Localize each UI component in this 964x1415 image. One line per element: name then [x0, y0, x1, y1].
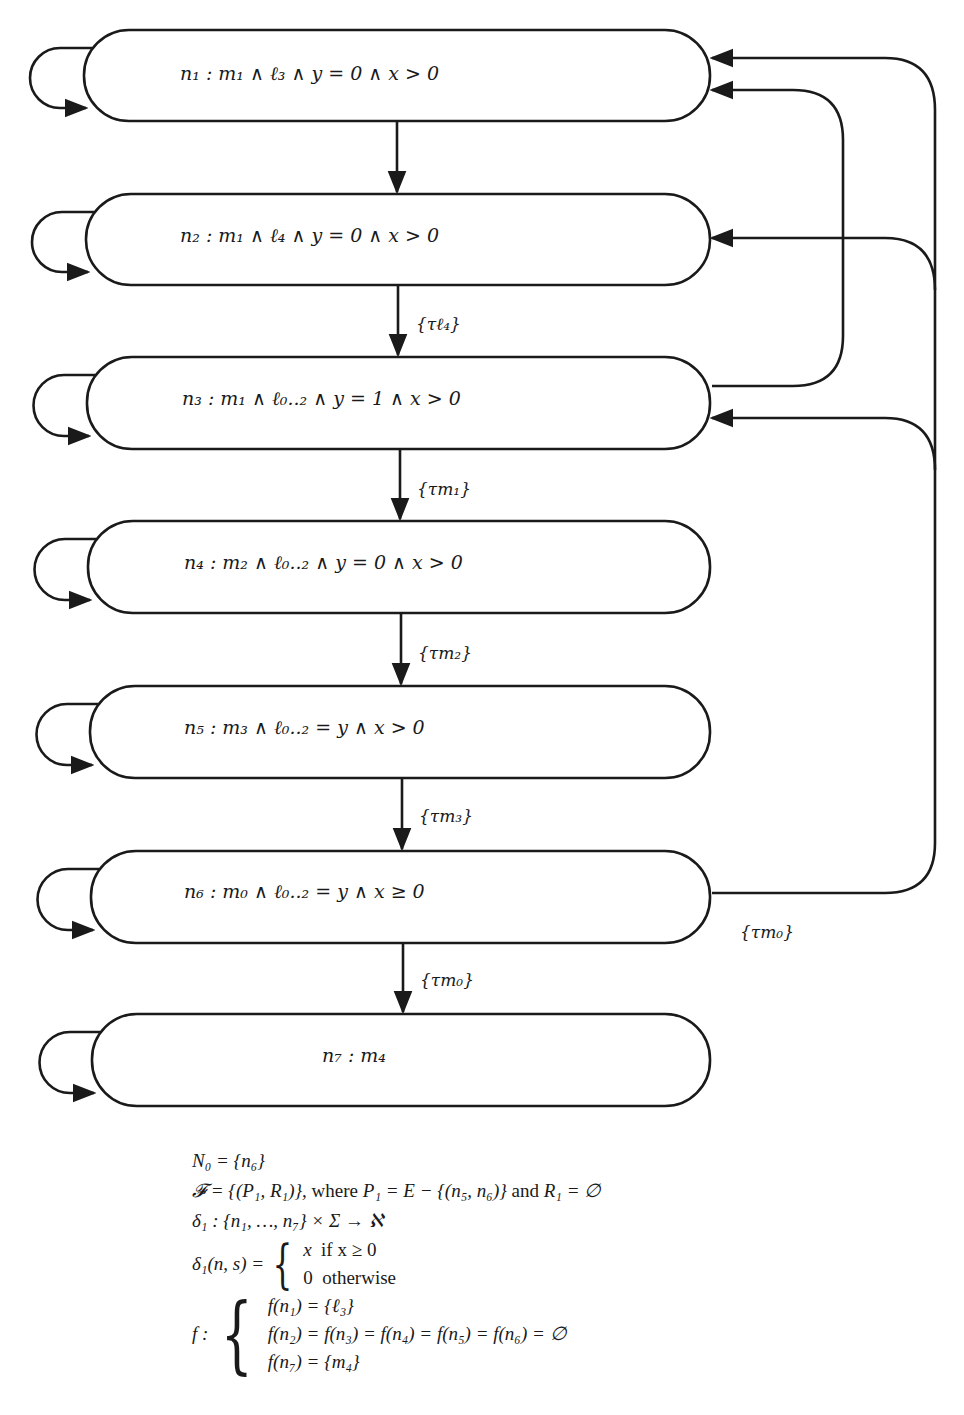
initial-nodes-definition: N₀ = {n₆} [192, 1146, 601, 1176]
edge-label-n3-n4: {τm₁} [417, 479, 471, 499]
node-n2-label: n₂ : m₁ ∧ ℓ₄ ∧ y = 0 ∧ x > 0 [180, 224, 439, 247]
self-loop-n1 [30, 48, 92, 108]
edge-n6-n3 [712, 418, 935, 470]
delta-case-1: x if x ≥ 0 [303, 1236, 396, 1264]
fairness-definition: 𝓕 = {(P₁, R₁)}, where P₁ = E − {(n₅, n₆)… [192, 1176, 601, 1206]
node-n7-label: n₇ : m₄ [322, 1044, 386, 1066]
edge-label-n6-back: {τm₀} [740, 922, 794, 942]
edge-n6-back-trunk [712, 110, 935, 893]
fairness-p1: P₁ = E − {(n₅, n₆)} [358, 1180, 512, 1201]
f-definition: f : { f(n₁) = {ℓ₃} f(n₂) = f(n₃) = f(n₄)… [192, 1292, 601, 1376]
edge-label-n6-n7: {τm₀} [420, 970, 474, 990]
fairness-r1: R₁ = ∅ [539, 1180, 601, 1201]
f-case-2: f(n₂) = f(n₃) = f(n₄) = f(n₅) = f(n₆) = … [268, 1320, 567, 1348]
delta-case-1-value: x [303, 1239, 311, 1260]
delta-signature: δ₁ : {n₁, …, n₇} × Σ → ℵ [192, 1206, 601, 1236]
node-n3-label: n₃ : m₁ ∧ ℓ₀..₂ ∧ y = 1 ∧ x > 0 [182, 387, 461, 410]
delta-lhs: δ₁(n, s) = [192, 1249, 264, 1279]
left-brace-icon: { [273, 1238, 293, 1290]
node-n1-label: n₁ : m₁ ∧ ℓ₃ ∧ y = 0 ∧ x > 0 [180, 62, 439, 85]
node-n4-label: n₄ : m₂ ∧ ℓ₀..₂ ∧ y = 0 ∧ x > 0 [184, 551, 463, 574]
edge-label-n2-n3: {τℓ₄} [416, 314, 461, 335]
delta-case-1-cond: if x ≥ 0 [321, 1239, 376, 1260]
state-diagram [0, 0, 964, 1140]
edge-label-n5-n6: {τm₃} [419, 806, 473, 826]
node-n7-shape[interactable] [92, 1014, 710, 1106]
edge-n6-n1 [712, 58, 935, 110]
delta-case-2: 0 otherwise [303, 1264, 396, 1292]
f-case-1: f(n₁) = {ℓ₃} [268, 1292, 567, 1320]
edge-n6-n2 [712, 238, 935, 290]
edge-label-n4-n5: {τm₂} [418, 643, 472, 663]
node-n6-label: n₆ : m₀ ∧ ℓ₀..₂ = y ∧ x ≥ 0 [184, 880, 425, 903]
fairness-and-word: and [512, 1180, 539, 1201]
delta-case-2-value: 0 [303, 1267, 313, 1288]
definitions-block: N₀ = {n₆} 𝓕 = {(P₁, R₁)}, where P₁ = E −… [192, 1146, 601, 1376]
fairness-set: 𝓕 = {(P₁, R₁)}, [192, 1180, 312, 1201]
delta-definition: δ₁(n, s) = { x if x ≥ 0 0 otherwise [192, 1236, 601, 1292]
f-lhs: f : [192, 1319, 208, 1349]
delta-case-2-cond: otherwise [322, 1267, 396, 1288]
f-case-3: f(n₇) = {m₄} [268, 1348, 567, 1376]
fairness-where-word: where [312, 1180, 358, 1201]
self-loop-n2 [32, 212, 94, 272]
left-brace-icon: { [221, 1292, 253, 1376]
node-n5-label: n₅ : m₃ ∧ ℓ₀..₂ = y ∧ x > 0 [184, 716, 425, 739]
